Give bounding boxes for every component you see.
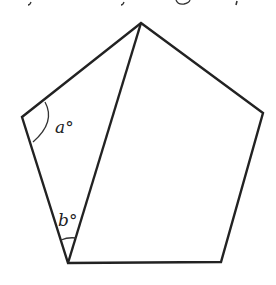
cropped-text-fragments — [28, 0, 237, 5]
angle-a-label: a° — [55, 117, 74, 137]
diagonal-line — [68, 23, 141, 263]
angle-a-arc — [33, 102, 49, 142]
angle-b-label: b° — [58, 210, 77, 230]
angle-b-arc — [61, 238, 76, 240]
pentagon-diagram: a° b° — [0, 0, 276, 285]
